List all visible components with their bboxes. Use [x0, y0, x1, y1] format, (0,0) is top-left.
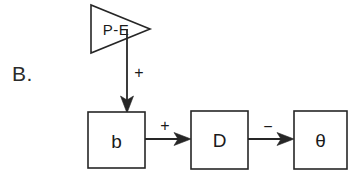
diagram-container: B. P-E + b + D — [0, 0, 352, 178]
node-theta[interactable]: θ — [294, 111, 347, 169]
node-label-d: D — [213, 130, 227, 151]
node-label-theta: θ — [315, 130, 326, 151]
node-b[interactable]: b — [88, 112, 145, 168]
edge-sign-pe-to-b: + — [134, 64, 143, 81]
edge-b-to-d: + — [145, 117, 191, 146]
node-label-p-e: P-E — [103, 21, 130, 38]
edge-sign-b-to-d: + — [160, 117, 169, 134]
edge-pe-to-b: + — [121, 29, 144, 113]
edge-sign-d-to-theta: − — [263, 118, 272, 135]
node-p-e[interactable]: P-E — [91, 5, 150, 53]
node-d[interactable]: D — [191, 111, 248, 169]
node-label-b: b — [111, 131, 122, 152]
diagram-canvas: P-E + b + D − — [0, 0, 352, 178]
edge-d-to-theta: − — [248, 118, 294, 146]
